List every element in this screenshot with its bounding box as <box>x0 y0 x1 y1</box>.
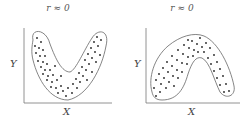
right-scatter-plot <box>122 0 245 124</box>
left-cloud-outline <box>32 31 107 100</box>
left-scatter-plot <box>0 0 122 124</box>
left-data-points <box>34 36 102 97</box>
right-chart-panel: r ≈ 0 Y X <box>122 0 245 124</box>
left-chart-panel: r ≈ 0 Y X <box>0 0 122 124</box>
left-axes <box>24 28 112 103</box>
